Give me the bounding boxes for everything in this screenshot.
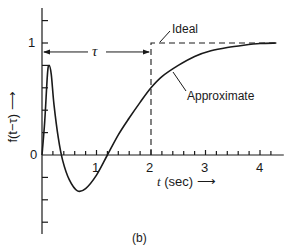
tau-arrowhead-right-icon <box>143 49 150 54</box>
x-axis-label: t (sec) ⟶ <box>157 175 216 188</box>
y-axis-label-text: f(t−τ) ⟶ <box>5 91 20 142</box>
ideal-leader-line <box>160 31 170 42</box>
y-axis-label: f(t−τ) ⟶ <box>2 72 22 162</box>
approximate-label: Approximate <box>187 90 254 102</box>
x-tick-label-4: 4 <box>256 161 263 174</box>
approximate-curve <box>42 43 276 192</box>
x-tick-label-2: 2 <box>146 161 153 174</box>
x-tick-label-1: 1 <box>92 161 99 174</box>
approximate-series <box>42 43 276 192</box>
approximate-leader-line <box>173 72 186 91</box>
axes <box>42 8 284 234</box>
tau-arrowhead-left-icon <box>43 49 50 54</box>
y-tick-label-0: 0 <box>30 148 37 161</box>
ideal-label: Ideal <box>172 23 198 35</box>
x-axis-variable: t <box>157 174 161 189</box>
x-tick-label-3: 3 <box>201 161 208 174</box>
chart-plot <box>0 0 289 249</box>
y-tick-label-1: 1 <box>28 36 35 49</box>
x-axis-unit: (sec) <box>164 174 193 189</box>
panel-label: (b) <box>132 232 147 244</box>
x-axis-arrow-icon: ⟶ <box>197 174 216 189</box>
tau-label: τ <box>92 44 97 59</box>
annotations <box>43 31 186 91</box>
